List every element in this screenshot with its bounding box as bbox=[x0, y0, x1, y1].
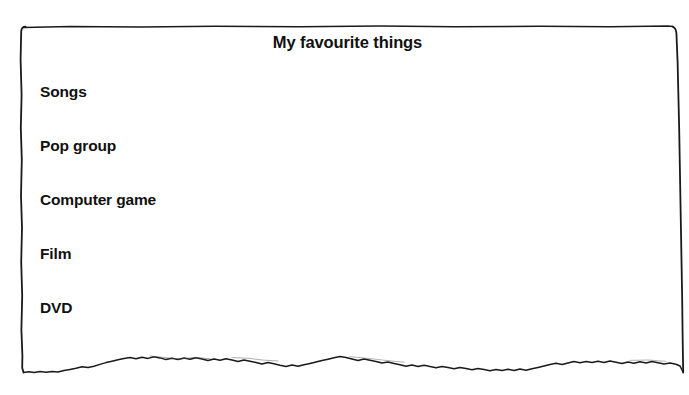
page-title: My favourite things bbox=[22, 33, 673, 52]
item-label-computer-game: Computer game bbox=[40, 191, 156, 209]
list-item-computer-game: Computer game bbox=[40, 191, 156, 209]
item-label-film: Film bbox=[40, 245, 71, 263]
item-label-pop-group: Pop group bbox=[40, 137, 116, 155]
list-item-film: Film bbox=[40, 245, 71, 263]
worksheet-canvas: My favourite things Songs Pop group Comp… bbox=[0, 0, 689, 395]
list-item-pop-group: Pop group bbox=[40, 137, 116, 155]
list-item-songs: Songs bbox=[40, 83, 87, 101]
item-label-dvd: DVD bbox=[40, 299, 72, 317]
item-label-songs: Songs bbox=[40, 83, 87, 101]
list-item-dvd: DVD bbox=[40, 299, 72, 317]
